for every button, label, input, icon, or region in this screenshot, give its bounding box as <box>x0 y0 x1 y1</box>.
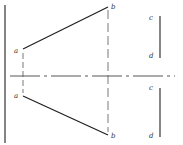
bottom-view-line-ab <box>23 96 108 135</box>
label-top-b: b <box>111 3 116 11</box>
top-view-line-ab <box>23 7 108 49</box>
label-bottom-b: b <box>111 132 116 140</box>
label-top-c: c <box>149 14 153 22</box>
label-top-a: a <box>14 47 18 55</box>
projection-drawing: a b c d a b c d <box>0 0 183 145</box>
label-bottom-d: d <box>149 132 154 140</box>
label-bottom-c: c <box>149 84 153 92</box>
label-bottom-a: a <box>14 92 18 100</box>
label-top-d: d <box>149 52 154 60</box>
